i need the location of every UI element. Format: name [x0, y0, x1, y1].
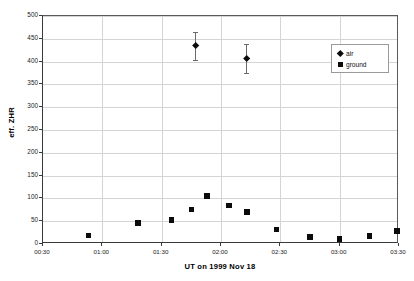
x-tick-mark — [398, 243, 399, 246]
y-tick-label: 450 — [2, 35, 38, 41]
gridline-horizontal — [43, 198, 397, 199]
gridline-horizontal — [43, 176, 397, 177]
scatter-chart: 050100150200250300350400450500 00:3001:0… — [0, 0, 414, 281]
error-bar-cap — [244, 44, 249, 45]
legend-item-air: air — [336, 48, 388, 59]
x-tick-label: 03:00 — [319, 249, 359, 255]
x-axis-title: UT on 1999 Nov 18 — [42, 262, 398, 271]
y-tick-mark — [39, 83, 42, 84]
gridline-horizontal — [43, 221, 397, 222]
x-tick-mark — [161, 243, 162, 246]
legend-item-ground: ground — [336, 59, 388, 70]
y-tick-mark — [39, 38, 42, 39]
data-point-ground — [86, 233, 92, 239]
gridline-vertical — [280, 16, 281, 242]
x-tick-mark — [339, 243, 340, 246]
y-tick-label: 500 — [2, 12, 38, 18]
gridline-horizontal — [43, 16, 397, 17]
x-tick-label: 03:30 — [378, 249, 414, 255]
x-tick-label: 01:30 — [141, 249, 181, 255]
y-tick-label: 50 — [2, 217, 38, 223]
data-point-ground — [169, 217, 175, 223]
error-bar-cap — [193, 60, 198, 61]
gridline-horizontal — [43, 107, 397, 108]
data-point-ground — [394, 228, 400, 234]
data-point-ground — [367, 233, 373, 239]
y-tick-label: 100 — [2, 194, 38, 200]
gridline-vertical — [102, 16, 103, 242]
square-marker-icon — [336, 62, 345, 67]
y-tick-mark — [39, 152, 42, 153]
gridline-horizontal — [43, 39, 397, 40]
x-tick-label: 02:00 — [200, 249, 240, 255]
x-tick-mark — [220, 243, 221, 246]
gridline-horizontal — [43, 153, 397, 154]
y-axis-title: eff. ZHR — [7, 93, 16, 153]
data-point-ground — [204, 193, 210, 199]
y-tick-label: 0 — [2, 240, 38, 246]
x-tick-mark — [279, 243, 280, 246]
y-tick-mark — [39, 175, 42, 176]
data-point-ground — [244, 209, 250, 215]
data-point-ground — [226, 203, 232, 209]
x-tick-label: 01:00 — [81, 249, 121, 255]
gridline-horizontal — [43, 84, 397, 85]
error-bar-cap — [244, 73, 249, 74]
y-tick-label: 350 — [2, 80, 38, 86]
x-tick-label: 02:30 — [259, 249, 299, 255]
diamond-marker-icon — [336, 51, 345, 56]
x-tick-mark — [101, 243, 102, 246]
gridline-vertical — [162, 16, 163, 242]
y-tick-mark — [39, 197, 42, 198]
data-point-ground — [189, 207, 195, 213]
data-point-ground — [135, 220, 141, 226]
y-tick-mark — [39, 220, 42, 221]
gridline-horizontal — [43, 130, 397, 131]
chart-legend: air ground — [331, 44, 389, 73]
gridline-vertical — [221, 16, 222, 242]
y-tick-mark — [39, 129, 42, 130]
data-point-ground — [337, 236, 343, 242]
data-point-ground — [307, 234, 313, 240]
y-tick-label: 150 — [2, 172, 38, 178]
y-tick-mark — [39, 61, 42, 62]
y-tick-mark — [39, 15, 42, 16]
x-tick-label: 00:30 — [22, 249, 62, 255]
error-bar-cap — [193, 32, 198, 33]
data-point-air — [191, 42, 199, 50]
x-tick-mark — [42, 243, 43, 246]
legend-label-air: air — [346, 50, 353, 57]
data-point-ground — [274, 227, 280, 233]
y-tick-mark — [39, 106, 42, 107]
legend-label-ground: ground — [346, 61, 367, 68]
y-tick-label: 400 — [2, 58, 38, 64]
